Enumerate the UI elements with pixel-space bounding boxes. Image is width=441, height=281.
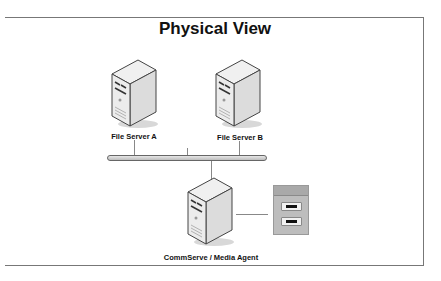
connector-server-a-bus xyxy=(134,140,135,155)
connector-bus-tick xyxy=(187,148,188,155)
diagram-title: Physical View xyxy=(0,19,430,39)
commserve-label: CommServe / Media Agent xyxy=(164,253,258,262)
connector-commserve-library xyxy=(236,214,268,215)
network-bus xyxy=(107,155,267,161)
file-server-b-icon xyxy=(212,58,264,134)
connector-server-b-bus xyxy=(239,141,240,155)
commserve-server-icon xyxy=(184,176,236,252)
tape-library-icon xyxy=(273,185,309,235)
file-server-a-icon xyxy=(108,58,160,134)
tape-drive-1 xyxy=(281,202,302,211)
tape-drive-2 xyxy=(281,217,302,226)
file-server-b-label: File Server B xyxy=(217,133,263,142)
tape-library-top xyxy=(274,186,308,196)
